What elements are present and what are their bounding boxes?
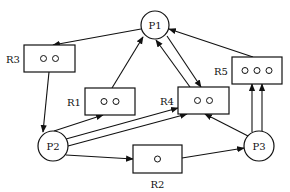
resource-box	[85, 88, 135, 115]
edge-r3-to-p2	[43, 72, 49, 132]
resource-label: R4	[160, 96, 174, 107]
edge-r1-to-p1	[112, 37, 143, 88]
resource-instance-dot	[195, 98, 201, 104]
resource-instance-dot	[266, 68, 272, 74]
process-p3: P3	[244, 131, 274, 161]
edge-p2-to-r2	[66, 155, 133, 159]
resource-box	[24, 45, 75, 72]
process-p2: P2	[38, 131, 68, 161]
process-label: P3	[252, 141, 265, 152]
resource-label: R2	[151, 179, 165, 190]
resource-instance-dot	[113, 99, 119, 105]
resource-allocation-graph: R1R2R3R4R5 P1P2P3	[0, 0, 290, 192]
resource-label: R1	[67, 97, 81, 108]
edge-p3-to-r4	[205, 114, 248, 136]
resource-label: R3	[6, 54, 20, 65]
edge-p2-to-r1	[54, 115, 103, 131]
process-label: P1	[148, 20, 161, 31]
resource-box	[178, 87, 229, 114]
resource-instance-dot	[242, 68, 248, 74]
resource-instance-dot	[101, 99, 107, 105]
resource-r5: R5	[214, 57, 282, 84]
resource-r3: R3	[6, 45, 75, 72]
process-p1: P1	[141, 11, 169, 39]
resource-instance-dot	[207, 98, 213, 104]
resource-instance-dot	[155, 156, 161, 162]
resource-r2: R2	[133, 145, 182, 190]
resource-instance-dot	[254, 68, 260, 74]
edge-p2-to-r4	[68, 114, 187, 146]
edge-r2-to-p3	[182, 148, 244, 158]
edge-r5-to-p1	[169, 29, 253, 57]
edge-p1-to-r3	[53, 29, 141, 45]
resource-r1: R1	[67, 88, 135, 115]
processes: P1P2P3	[38, 11, 274, 161]
resource-instance-dot	[53, 56, 59, 62]
process-label: P2	[46, 141, 59, 152]
resource-instance-dot	[41, 56, 47, 62]
resource-label: R5	[214, 66, 228, 77]
